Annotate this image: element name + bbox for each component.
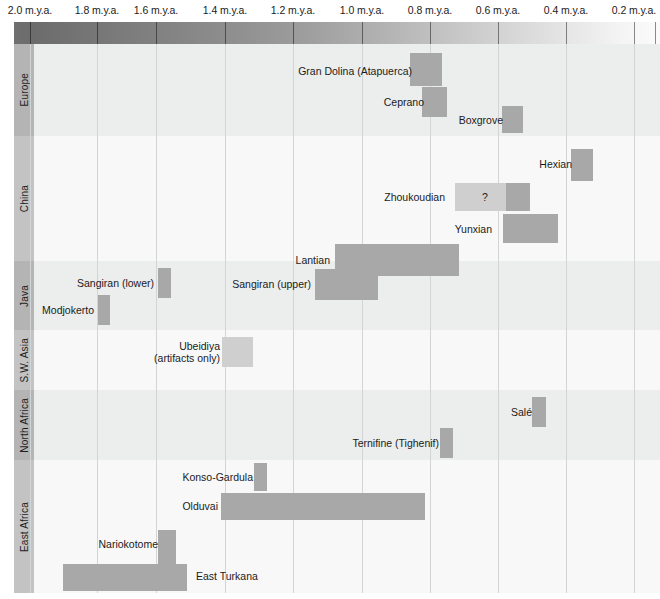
region-band (14, 44, 660, 136)
site-label-line: Sangiran (lower) (77, 277, 154, 289)
site-label-ceprano: Ceprano (384, 96, 424, 108)
region-label-europe: Europe (14, 44, 34, 136)
axis-tick-label: 0.2 m.y.a. (612, 4, 656, 16)
axis-tick-label: 0.4 m.y.a. (544, 4, 588, 16)
site-label-ternifine-tighenif: Ternifine (Tighenif) (352, 437, 439, 449)
gradient-tick (30, 22, 31, 44)
site-label-line: East Turkana (196, 570, 258, 582)
site-label-line: Zhoukoudian (384, 191, 445, 203)
site-bar-yunxian[interactable] (503, 214, 558, 243)
site-label-line: Konso-Gardula (182, 471, 253, 483)
bar-segment-solid (440, 428, 453, 458)
bar-segment-solid (502, 106, 523, 133)
region-label-text: East Africa (19, 502, 30, 552)
region-label-text: China (19, 185, 30, 212)
site-bar-hexian[interactable] (571, 149, 593, 181)
bar-segment-solid (221, 493, 425, 520)
site-bar-sangiran-lower[interactable] (158, 268, 171, 298)
axis-tick-label: 0.8 m.y.a. (408, 4, 452, 16)
axis-tick-label: 2.0 m.y.a. (8, 4, 52, 16)
site-bar-nariokotome[interactable] (158, 530, 176, 564)
site-label-line: Salé (511, 406, 532, 418)
gradient-tick (498, 22, 499, 44)
site-bar-konso-gardula[interactable] (254, 463, 267, 491)
axis-tick-label-row: 2.0 m.y.a.1.8 m.y.a.1.6 m.y.a.1.4 m.y.a.… (0, 0, 660, 22)
bar-segment-uncertain (455, 183, 506, 211)
site-bar-sale[interactable] (532, 397, 546, 427)
plot-gridline (156, 44, 157, 593)
site-bar-sangiran-upper[interactable] (315, 269, 378, 300)
site-label-sale: Salé (511, 406, 532, 418)
region-label-text: North Africa (19, 398, 30, 453)
gradient-tick (362, 22, 363, 44)
site-label-line: (artifacts only) (154, 352, 220, 364)
gradient-tick (156, 22, 157, 44)
site-label-nariokotome: Nariokotome (98, 538, 158, 550)
site-bar-ceprano[interactable] (422, 87, 447, 117)
region-label-s-w-asia: S.W. Asia (14, 330, 34, 390)
region-label-east-africa: East Africa (14, 460, 34, 593)
site-bar-ubeidiya-artifacts-only[interactable] (222, 337, 253, 367)
site-label-line: Sangiran (upper) (232, 278, 311, 290)
bar-segment-solid (571, 149, 593, 181)
gradient-tick (634, 22, 635, 44)
region-label-china: China (14, 136, 34, 261)
bar-segment-solid (422, 87, 447, 117)
site-bar-boxgrove[interactable] (502, 106, 523, 133)
bar-segment-solid (63, 564, 187, 591)
region-label-text: Java (19, 285, 30, 307)
bar-segment-solid (410, 53, 442, 86)
bar-segment-solid (532, 397, 546, 427)
site-bar-ternifine-tighenif[interactable] (440, 428, 453, 458)
site-label-line: Modjokerto (42, 304, 94, 316)
site-bar-gran-dolina-atapuerca[interactable] (410, 53, 442, 86)
region-label-text: S.W. Asia (19, 338, 30, 383)
site-bar-modjokerto[interactable] (98, 295, 110, 325)
site-bar-east-turkana[interactable] (63, 564, 187, 591)
site-label-line: Ubeidiya (179, 340, 220, 352)
site-label-line: Nariokotome (98, 538, 158, 550)
gradient-tick (430, 22, 431, 44)
right-edge-tick (655, 22, 656, 44)
axis-tick-label: 1.0 m.y.a. (340, 4, 384, 16)
site-bar-olduvai[interactable] (221, 493, 425, 520)
axis-tick-label: 0.6 m.y.a. (476, 4, 520, 16)
site-bar-zhoukoudian[interactable]: ? (455, 183, 530, 211)
left-margin-strip (0, 44, 14, 593)
bar-segment-solid (254, 463, 267, 491)
uncertainty-marker: ? (482, 191, 488, 203)
site-label-line: Olduvai (182, 500, 218, 512)
site-label-boxgrove: Boxgrove (459, 114, 503, 126)
site-label-line: Lantian (296, 254, 330, 266)
gradient-tick (566, 22, 567, 44)
site-label-line: Hexian (539, 158, 572, 170)
axis-tick-label: 1.4 m.y.a. (203, 4, 247, 16)
site-label-line: Boxgrove (459, 114, 503, 126)
gradient-tick (293, 22, 294, 44)
plot-gridline (30, 44, 31, 593)
site-label-lantian: Lantian (296, 254, 330, 266)
region-label-java: Java (14, 261, 34, 330)
region-band (14, 330, 660, 390)
time-gradient-bar (14, 22, 660, 44)
plot-gridline (430, 44, 431, 593)
bar-segment-solid (506, 183, 530, 211)
gradient-tick (97, 22, 98, 44)
bar-segment-solid (503, 214, 558, 243)
plot-gridline (566, 44, 567, 593)
site-label-modjokerto: Modjokerto (42, 304, 94, 316)
region-label-north-africa: North Africa (14, 390, 34, 460)
bar-segment-solid (158, 268, 171, 298)
site-label-line: Yunxian (455, 223, 492, 235)
bar-segment-solid (158, 530, 176, 564)
axis-tick-label: 1.6 m.y.a. (134, 4, 178, 16)
bar-segment-solid (98, 295, 110, 325)
site-label-ubeidiya-artifacts-only: Ubeidiya(artifacts only) (154, 340, 220, 364)
axis-tick-label: 1.8 m.y.a. (75, 4, 119, 16)
site-label-konso-gardula: Konso-Gardula (182, 471, 253, 483)
region-band (14, 390, 660, 460)
site-label-sangiran-upper: Sangiran (upper) (232, 278, 311, 290)
site-label-line: Gran Dolina (Atapuerca) (298, 65, 412, 77)
site-label-hexian: Hexian (539, 158, 572, 170)
axis-tick-label: 1.2 m.y.a. (271, 4, 315, 16)
